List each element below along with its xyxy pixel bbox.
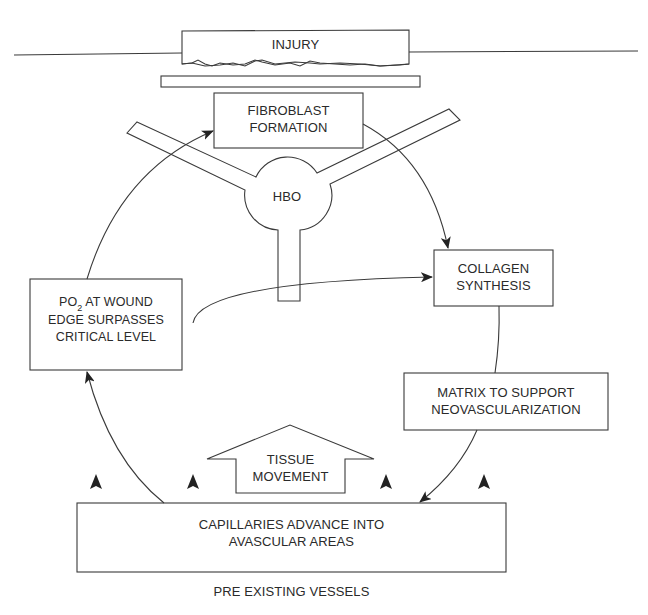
- vessels-label: PRE EXISTING VESSELS: [77, 581, 506, 601]
- hbo-label: HBO: [257, 186, 317, 206]
- arrow-po2-to-fibroblast: [87, 131, 213, 279]
- injury-text: INJURY: [272, 36, 319, 53]
- collagen-line1: COLLAGEN: [458, 260, 530, 277]
- vessel-arrowhead-1: [90, 474, 102, 489]
- tissue-line2: MOVEMENT: [253, 468, 329, 485]
- tissue-label: TISSUE MOVEMENT: [236, 448, 345, 488]
- arrow-matrix-to-capillaries: [420, 430, 477, 502]
- arrow-fibroblast-to-collagen: [363, 124, 448, 248]
- po2-label: PO2 AT WOUND EDGE SURPASSES CRITICAL LEV…: [30, 290, 182, 350]
- collagen-line2: SYNTHESIS: [456, 277, 531, 294]
- vessel-arrowhead-3: [380, 474, 392, 489]
- po2-prefix: PO: [59, 295, 77, 309]
- skin-line-right: [409, 51, 638, 52]
- po2-line2: EDGE SURPASSES: [48, 312, 164, 329]
- dressing-bar: [161, 76, 420, 87]
- collagen-label: COLLAGEN SYNTHESIS: [434, 252, 553, 302]
- fibroblast-label: FIBROBLAST FORMATION: [214, 93, 363, 145]
- po2-line1-rest: AT WOUND: [82, 295, 153, 309]
- fibroblast-line2: FORMATION: [250, 119, 328, 136]
- matrix-line2: NEOVASCULARIZATION: [431, 401, 580, 418]
- injury-label: INJURY: [182, 32, 409, 56]
- matrix-label: MATRIX TO SUPPORT NEOVASCULARIZATION: [404, 374, 608, 428]
- po2-line3: CRITICAL LEVEL: [56, 329, 156, 346]
- po2-subscript: 2: [77, 303, 82, 313]
- capillaries-line1: CAPILLARIES ADVANCE INTO: [199, 516, 384, 533]
- capillaries-line2: AVASCULAR AREAS: [229, 533, 354, 550]
- matrix-line1: MATRIX TO SUPPORT: [437, 384, 574, 401]
- vessels-text: PRE EXISTING VESSELS: [214, 583, 370, 600]
- arrow-hbo-to-collagen: [193, 277, 432, 323]
- skin-line-left: [14, 53, 182, 55]
- vessel-arrowhead-4: [478, 474, 490, 489]
- vessel-arrowhead-2: [187, 474, 199, 489]
- capillaries-label: CAPILLARIES ADVANCE INTO AVASCULAR AREAS: [77, 505, 506, 561]
- fibroblast-line1: FIBROBLAST: [248, 102, 330, 119]
- po2-line1: PO2 AT WOUND: [59, 294, 153, 312]
- tissue-line1: TISSUE: [267, 451, 315, 468]
- hbo-text: HBO: [273, 188, 301, 205]
- line-collagen-to-matrix: [495, 306, 499, 373]
